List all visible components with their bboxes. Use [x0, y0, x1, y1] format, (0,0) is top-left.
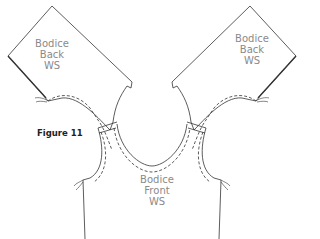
- right-back-piece-outline: [172, 6, 296, 130]
- label-line: Bodice: [27, 38, 77, 49]
- right-back-label: Bodice Back WS: [227, 33, 277, 66]
- figure-caption: Figure 11: [37, 128, 83, 138]
- left-back-label: Bodice Back WS: [27, 38, 77, 71]
- label-line: WS: [132, 196, 182, 207]
- label-line: WS: [227, 55, 277, 66]
- front-label: Bodice Front WS: [132, 174, 182, 207]
- label-line: Back: [227, 44, 277, 55]
- label-line: Bodice: [227, 33, 277, 44]
- label-line: Bodice: [132, 174, 182, 185]
- label-line: Back: [27, 49, 77, 60]
- label-line: WS: [27, 60, 77, 71]
- label-line: Front: [132, 185, 182, 196]
